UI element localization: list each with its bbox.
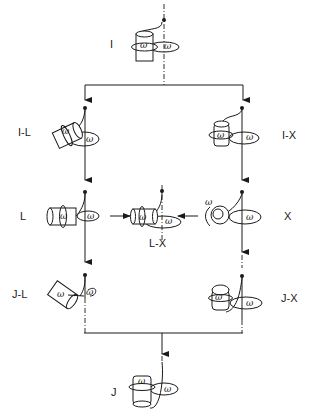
- stage-I-L: ω ω I-L: [18, 110, 99, 151]
- stage-X: ω ω X: [205, 194, 292, 226]
- stage-label-L-X: L-X: [149, 237, 167, 249]
- omega-spin-label: ω: [140, 40, 148, 50]
- spin-arc: [206, 207, 211, 226]
- omega-orbit-label: ω: [246, 298, 254, 308]
- omega-orbit-label: ω: [86, 287, 94, 297]
- tether: [222, 110, 242, 122]
- omega-spin-label: ω: [62, 126, 70, 136]
- tether: [80, 277, 85, 296]
- pivot-dot-IX: [240, 106, 244, 110]
- omega-spin-label: ω: [205, 197, 213, 207]
- cylinder-end-left: [47, 208, 53, 225]
- pivot-dot-X: [240, 190, 244, 194]
- stage-J-X: ω ω J-X: [209, 278, 299, 312]
- omega-orbit-label: ω: [86, 134, 94, 144]
- omega-spin-label: ω: [217, 130, 225, 140]
- pivot-dot-I: [162, 18, 166, 22]
- stage-label-J: J: [111, 386, 117, 398]
- stage-L-X: ω ω L-X: [131, 185, 182, 249]
- stage-J: ω ω J: [111, 362, 178, 408]
- tether: [78, 110, 85, 127]
- stage-label-I-L: I-L: [18, 126, 31, 138]
- stage-label-J-X: J-X: [281, 292, 298, 304]
- pivot-dot-IL: [83, 106, 87, 110]
- cylinder-bottom: [133, 401, 151, 407]
- stage-label-X: X: [284, 210, 292, 222]
- rotation-pathway-diagram: ω ω I ω ω I-L ω ω I-X ω ω L: [0, 0, 314, 420]
- omega-orbit-label: ω: [87, 211, 95, 221]
- omega-orbit-label: ω: [246, 132, 254, 142]
- cylinder-end-on: [211, 206, 229, 224]
- stage-L: ω ω L: [20, 194, 99, 228]
- omega-spin-label: ω: [57, 289, 65, 299]
- pivot-dot-JX: [240, 274, 244, 278]
- stage-label-I: I: [110, 38, 113, 50]
- omega-spin-label: ω: [60, 211, 68, 221]
- stage-label-J-L: J-L: [12, 288, 27, 300]
- tether: [140, 22, 162, 32]
- stage-J-L: ω ω J-L: [12, 277, 96, 310]
- cylinder-top: [214, 121, 229, 127]
- stage-label-I-X: I-X: [282, 129, 297, 141]
- cylinder-end-right: [153, 209, 158, 224]
- pivot-dot-L: [83, 190, 87, 194]
- orbit-ellipse: [229, 210, 261, 224]
- omega-orbit-label: ω: [164, 384, 172, 394]
- omega-spin-label: ω: [138, 376, 146, 386]
- omega-orbit-label: ω: [164, 41, 172, 51]
- stage-I: ω ω I: [110, 22, 179, 61]
- cylinder-end-left: [131, 209, 136, 224]
- orbit-ellipse: [229, 132, 259, 144]
- stage-label-L: L: [20, 210, 26, 222]
- omega-orbit-label: ω: [165, 216, 173, 226]
- omega-orbit-label: ω: [246, 212, 254, 222]
- cylinder-top: [136, 31, 153, 37]
- omega-spin-label: ω: [139, 212, 147, 222]
- omega-spin-label: ω: [215, 292, 223, 302]
- pivot-dot-JL: [83, 273, 87, 277]
- stage-I-X: ω ω I-X: [209, 110, 297, 146]
